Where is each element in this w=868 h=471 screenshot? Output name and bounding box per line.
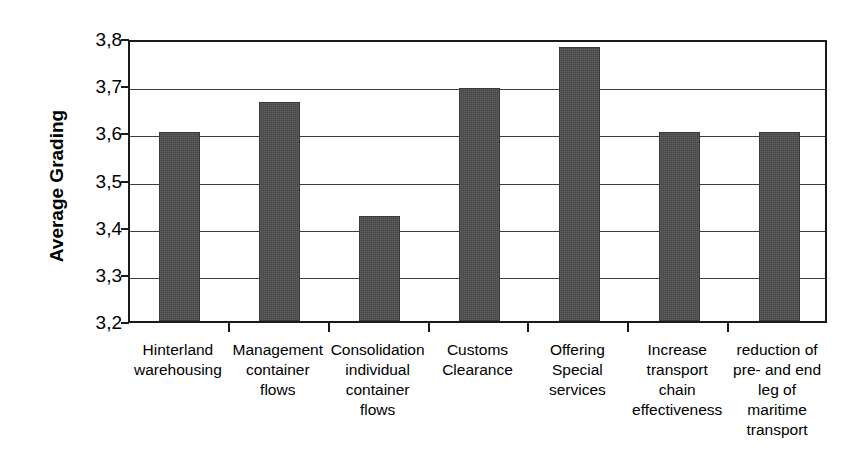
plot-area [128,40,827,323]
y-tick-label: 3,4 [78,218,122,240]
x-category-label: Offering Special services [525,340,629,400]
bar-chart: Average Grading 3,83,73,63,53,43,33,2 Hi… [0,0,868,471]
x-category-label: reduction of pre- and end leg of maritim… [725,340,829,440]
y-tick-label: 3,8 [78,29,122,51]
x-category-label: Management container flows [226,340,330,400]
y-axis-title: Average Grading [46,66,68,306]
bar [259,102,300,321]
x-category-label: Increase transport chain effectiveness [625,340,729,420]
bar [159,132,200,321]
x-tick-mark [727,323,729,332]
bar [659,132,700,321]
x-tick-mark [228,323,230,332]
x-tick-mark [328,323,330,332]
y-tick-label: 3,7 [78,76,122,98]
x-tick-mark [527,323,529,332]
y-tick-label: 3,3 [78,265,122,287]
bar [559,47,600,321]
y-tick-label: 3,5 [78,171,122,193]
y-tick-label: 3,6 [78,123,122,145]
x-tick-mark [428,323,430,332]
bar [759,132,800,321]
x-category-label: Consolidation individual container flows [326,340,430,420]
x-category-label: Customs Clearance [426,340,530,380]
bar [359,216,400,321]
x-category-label: Hinterland warehousing [126,340,230,380]
x-tick-mark [627,323,629,332]
y-tick-label: 3,2 [78,312,122,334]
bar [459,88,500,321]
